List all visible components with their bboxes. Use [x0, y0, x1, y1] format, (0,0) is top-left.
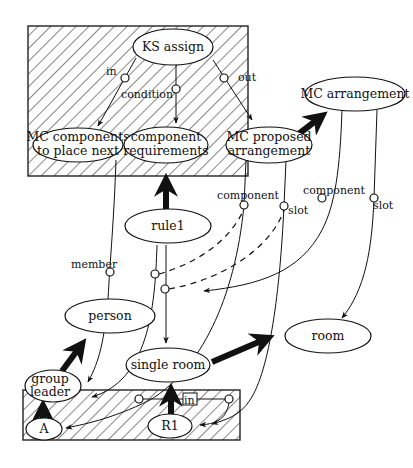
- bottom-knot-left: [135, 395, 143, 403]
- edge-slot-2: [342, 110, 377, 318]
- edge-component-1-knot: [240, 201, 248, 209]
- node-r1[interactable]: R1: [148, 414, 192, 438]
- svg-text:leader: leader: [30, 384, 70, 399]
- svg-text:person: person: [88, 308, 131, 323]
- svg-text:to place next: to place next: [37, 143, 119, 158]
- label-component-2: component: [303, 184, 366, 197]
- svg-text:room: room: [312, 328, 345, 343]
- svg-text:KS assign: KS assign: [142, 39, 204, 54]
- svg-text:R1: R1: [161, 418, 178, 433]
- label-member: member: [71, 258, 118, 271]
- node-a[interactable]: A: [26, 418, 62, 440]
- label-in-bottom: in: [184, 394, 195, 407]
- node-ks-assign[interactable]: KS assign: [133, 29, 213, 65]
- node-room[interactable]: room: [285, 319, 371, 353]
- bottom-knot-right: [225, 395, 233, 403]
- diagram-canvas: in KS assign MC components to place next…: [0, 0, 413, 468]
- svg-text:MC arrangement: MC arrangement: [301, 86, 410, 101]
- node-mc-components[interactable]: MC components to place next: [26, 128, 129, 162]
- edge-in-knot: [121, 74, 129, 82]
- thick-groupleader-person: [62, 344, 82, 371]
- svg-text:rule1: rule1: [151, 218, 184, 233]
- diagram-svg: in KS assign MC components to place next…: [0, 0, 413, 468]
- rule1-knot-1: [151, 270, 159, 278]
- node-mc-arrangement[interactable]: MC arrangement: [301, 77, 410, 111]
- label-component-1: component: [217, 189, 280, 202]
- svg-text:MC components: MC components: [26, 129, 129, 144]
- rule1-knot-2: [161, 285, 169, 293]
- edge-condition-knot: [172, 85, 180, 93]
- label-out: out: [238, 71, 257, 84]
- node-rule1[interactable]: rule1: [125, 209, 211, 243]
- node-single-room[interactable]: single room: [126, 348, 210, 382]
- label-slot-2: slot: [373, 199, 394, 212]
- node-component-requirements[interactable]: component requirements: [123, 127, 209, 163]
- svg-text:component: component: [131, 129, 201, 144]
- label-slot-1: slot: [288, 204, 309, 217]
- edge-out-knot: [220, 74, 228, 82]
- svg-text:requirements: requirements: [123, 143, 209, 158]
- edge-slot-1-knot: [280, 202, 288, 210]
- label-condition: condition: [121, 88, 173, 101]
- node-person[interactable]: person: [65, 299, 155, 333]
- svg-text:MC proposed: MC proposed: [226, 129, 311, 144]
- svg-text:A: A: [38, 421, 49, 436]
- node-group-leader[interactable]: group leader: [25, 370, 81, 402]
- thick-singleroom-room: [212, 338, 268, 362]
- svg-text:single room: single room: [131, 357, 206, 372]
- svg-text:arrangement: arrangement: [228, 143, 311, 158]
- label-in-top: in: [106, 65, 117, 78]
- node-mc-proposed[interactable]: MC proposed arrangement: [226, 127, 312, 163]
